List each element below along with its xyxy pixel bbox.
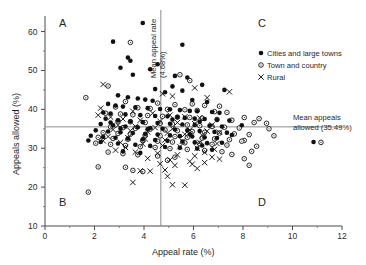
data-point (96, 112, 101, 117)
data-point-dot (212, 144, 213, 145)
data-point (86, 138, 91, 143)
data-point (136, 125, 141, 130)
data-point (185, 128, 190, 133)
data-point (311, 140, 316, 145)
data-point (225, 130, 230, 135)
data-point (116, 118, 121, 123)
data-point (222, 88, 227, 93)
data-point-dot (204, 150, 205, 151)
x-tick-label-10: 10 (288, 232, 297, 241)
y-axis-title: Appeals allowed (%) (12, 93, 21, 175)
data-point (227, 89, 232, 94)
data-point (140, 137, 145, 142)
data-point (239, 123, 244, 128)
data-point (126, 95, 131, 100)
data-point-dot (125, 145, 126, 146)
data-point (190, 161, 195, 166)
data-point-dot (142, 171, 143, 172)
data-point (187, 109, 192, 114)
data-point (192, 85, 197, 90)
data-point (121, 104, 126, 109)
data-point-dot (251, 151, 252, 152)
data-point (100, 82, 105, 87)
data-point (153, 87, 158, 92)
data-point (180, 88, 185, 93)
data-point (195, 109, 200, 114)
x-axis-title: Appeal rate (%) (152, 248, 215, 257)
data-point-dot (130, 42, 131, 43)
data-point (116, 93, 121, 98)
data-point (106, 102, 111, 107)
data-point-dot (221, 151, 222, 152)
data-point-dot (167, 160, 168, 161)
data-point-dot (320, 142, 321, 143)
x-tick-label-0: 0 (43, 232, 48, 241)
data-point (160, 126, 165, 131)
data-point (113, 147, 118, 152)
data-point (202, 160, 207, 165)
data-point (187, 132, 192, 137)
quadrant-label-b: B (59, 197, 66, 208)
data-point (130, 180, 135, 185)
data-point (153, 114, 158, 119)
data-point (121, 149, 126, 154)
data-point (178, 108, 183, 113)
data-point (136, 96, 141, 101)
data-point-dot (189, 117, 190, 118)
data-point-dot (187, 124, 188, 125)
data-point (173, 74, 178, 79)
data-point (170, 182, 175, 187)
data-point-dot (157, 155, 158, 156)
data-point (168, 133, 173, 138)
data-point (170, 84, 175, 89)
data-point (162, 167, 167, 172)
data-point (133, 142, 138, 147)
data-point-dot (132, 114, 133, 115)
legend-label-town-country: Town and country (267, 62, 327, 70)
data-point-dot (162, 116, 163, 117)
data-point (192, 153, 197, 158)
mean-appeal-rate-label-line1: Mean appeal rate (150, 19, 158, 78)
data-point-dot (219, 106, 220, 107)
data-point (230, 133, 235, 138)
data-point (172, 163, 177, 168)
data-point (131, 72, 136, 77)
data-point (165, 174, 170, 179)
quadrant-label-a: A (59, 18, 66, 29)
data-point (148, 144, 153, 149)
data-point-dot (239, 127, 240, 128)
data-point-dot (88, 192, 89, 193)
data-point (207, 123, 212, 128)
data-point (192, 140, 197, 145)
data-point (101, 135, 106, 140)
data-point (103, 116, 108, 121)
y-tick-label-60: 60 (28, 28, 37, 37)
data-point (210, 147, 215, 152)
data-point (209, 154, 214, 159)
data-point (180, 42, 185, 47)
data-point (145, 156, 150, 161)
data-point (170, 117, 175, 122)
data-point-dot (110, 144, 111, 145)
data-point (128, 119, 133, 124)
data-point (153, 138, 158, 143)
data-point (120, 116, 125, 121)
legend-markers-group (258, 51, 263, 80)
data-point (192, 123, 197, 128)
data-point-dot (266, 123, 267, 124)
data-point (145, 127, 150, 132)
data-point (202, 117, 207, 122)
data-point (108, 111, 113, 116)
data-point (98, 140, 103, 145)
data-point (214, 141, 219, 146)
data-point (123, 124, 128, 129)
data-point (168, 121, 173, 126)
y-tick-label-10: 10 (28, 222, 37, 231)
data-point (101, 110, 106, 115)
y-tick-label-40: 40 (28, 105, 37, 114)
data-point (163, 145, 168, 150)
data-point (152, 125, 157, 130)
data-point-dot (254, 122, 255, 123)
data-point (173, 127, 178, 132)
data-point-dot (273, 135, 274, 136)
